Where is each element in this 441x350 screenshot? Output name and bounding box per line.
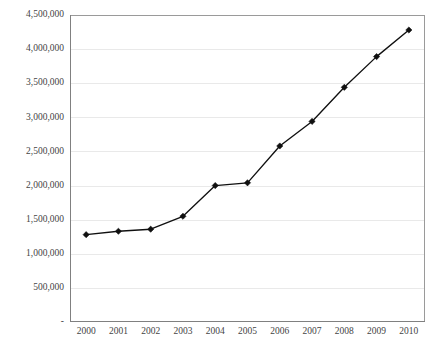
y-axis-tick-label: - (61, 316, 64, 326)
chart-canvas: -500,0001,000,0001,500,0002,000,0002,500… (0, 0, 441, 350)
chart-background (0, 0, 441, 350)
y-axis-tick-label: 3,500,000 (26, 77, 64, 87)
x-axis-tick-label: 2006 (270, 326, 289, 336)
y-axis-tick-label: 500,000 (33, 282, 64, 292)
y-axis-tick-label: 4,000,000 (26, 43, 64, 53)
y-axis-tick-label: 1,500,000 (26, 214, 64, 224)
y-axis-tick-label: 1,000,000 (26, 248, 64, 258)
x-axis-tick-label: 2008 (335, 326, 354, 336)
x-axis-tick-label: 2001 (109, 326, 128, 336)
y-axis-tick-label: 4,500,000 (26, 9, 64, 19)
x-axis-tick-label: 2009 (367, 326, 386, 336)
y-axis-tick-label: 2,000,000 (26, 180, 64, 190)
line-chart-figure: -500,0001,000,0001,500,0002,000,0002,500… (0, 0, 441, 350)
x-axis-tick-label: 2002 (141, 326, 160, 336)
x-axis-tick-label: 2003 (173, 326, 192, 336)
x-axis-tick-label: 2007 (303, 326, 322, 336)
x-axis-tick-label: 2010 (399, 326, 418, 336)
y-axis-tick-label: 2,500,000 (26, 146, 64, 156)
x-axis-tick-label: 2004 (206, 326, 225, 336)
y-axis-tick-label: 3,000,000 (26, 112, 64, 122)
x-axis-tick-label: 2005 (238, 326, 257, 336)
x-axis-tick-label: 2000 (77, 326, 96, 336)
